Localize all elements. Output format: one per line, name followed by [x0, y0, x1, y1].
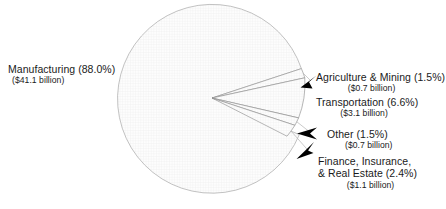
label-transportation-value: ($3.1 billion): [316, 108, 418, 118]
pie-chart-figure: Manufacturing (88.0%) ($41.1 billion) Ag…: [0, 0, 446, 209]
label-manufacturing-value: ($41.1 billion): [8, 75, 115, 85]
label-other: Other (1.5%) ($0.7 billion): [327, 128, 393, 151]
label-finance-insurance-real-estate: Finance, Insurance, & Real Estate (2.4%)…: [318, 155, 417, 190]
label-other-value: ($0.7 billion): [327, 140, 393, 150]
label-manufacturing-title: Manufacturing (88.0%): [8, 63, 115, 75]
label-finance-title-line1: Finance, Insurance,: [318, 155, 417, 167]
label-agriculture-mining-title: Agriculture & Mining (1.5%): [316, 71, 445, 83]
label-manufacturing: Manufacturing (88.0%) ($41.1 billion): [8, 63, 115, 86]
label-other-title: Other (1.5%): [327, 128, 393, 140]
pie-slices: [118, 4, 305, 193]
label-transportation-title: Transportation (6.6%): [316, 96, 418, 108]
label-transportation: Transportation (6.6%) ($3.1 billion): [316, 96, 418, 119]
label-finance-value: ($1.1 billion): [318, 180, 417, 190]
label-finance-title-line2: & Real Estate (2.4%): [318, 167, 417, 179]
arrow-other-icon: [297, 128, 317, 140]
label-agriculture-mining-value: ($0.7 billion): [316, 83, 445, 93]
arrow-finance-icon: [297, 142, 315, 159]
label-agriculture-mining: Agriculture & Mining (1.5%) ($0.7 billio…: [316, 71, 445, 94]
